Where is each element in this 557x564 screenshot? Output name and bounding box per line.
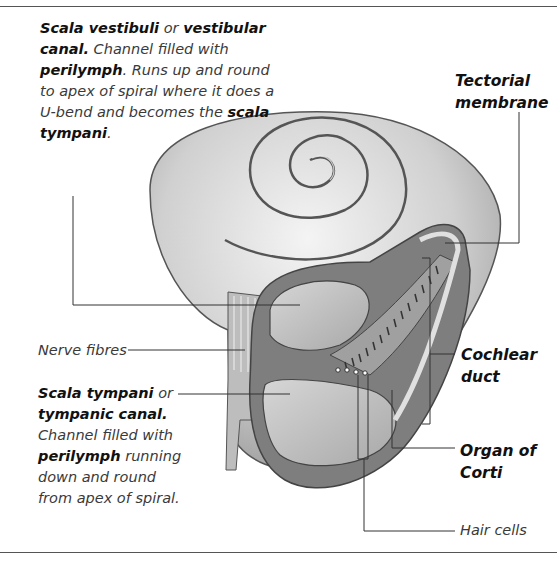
text-or: or [159, 20, 183, 36]
text-or: or [154, 385, 173, 401]
term-perilymph: perilymph [40, 62, 123, 78]
desc-part1: Channel filled with [38, 427, 173, 443]
label-scala-tympani: Scala tympani or tympanic canal. Channel… [38, 383, 188, 509]
term-scala-vestibuli: Scala vestibuli [40, 20, 159, 36]
label-tectorial-membrane: Tectorial membrane [455, 70, 555, 114]
desc-part1: Channel filled with [89, 41, 229, 57]
term-scala-tympani: Scala tympani [38, 385, 154, 401]
label-organ-of-corti: Organ of Corti [460, 440, 550, 484]
desc-part3: . [107, 125, 112, 141]
term-tympanic-canal: tympanic canal. [38, 406, 168, 422]
label-hair-cells: Hair cells [460, 520, 527, 541]
term-perilymph: perilymph [38, 448, 121, 464]
label-nerve-fibres: Nerve fibres [38, 340, 127, 361]
label-cochlear-duct: Cochlear duct [461, 344, 551, 388]
label-scala-vestibuli: Scala vestibuli or vestibular canal. Cha… [40, 18, 280, 144]
